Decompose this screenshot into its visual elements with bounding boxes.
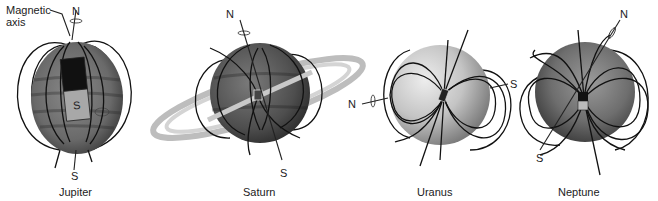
magnetic-axis-label-line2: axis [6, 16, 26, 28]
magnet-south-half [578, 101, 588, 110]
north-pole-label: N [620, 8, 628, 20]
bar-magnet [254, 90, 262, 100]
south-pole-label: S [280, 167, 287, 179]
planet-label-saturn: Saturn [243, 186, 275, 198]
rotation-arrow-icon [70, 19, 82, 23]
magnet-pole-label: S [72, 99, 81, 112]
north-pole-label: N [348, 98, 356, 110]
south-pole-label: S [71, 170, 78, 182]
north-pole-label: N [72, 5, 80, 17]
planet-saturn: N S Saturn [147, 8, 370, 198]
field-line [88, 150, 92, 162]
planet-neptune: N S Neptune [520, 8, 648, 198]
south-pole-label: S [510, 78, 517, 90]
planet-label-uranus: Uranus [417, 186, 453, 198]
planet-label-jupiter: Jupiter [59, 186, 92, 198]
planet-label-neptune: Neptune [558, 186, 600, 198]
magnet-north-half [578, 92, 588, 101]
planet-jupiter: Magnetic axis S [6, 4, 131, 198]
south-pole-label: S [536, 152, 543, 164]
magnetic-axis-pointer [50, 10, 70, 36]
field-line [55, 150, 60, 168]
rotation-axis-south [490, 84, 508, 88]
magnetic-axis-label-line1: Magnetic [6, 4, 51, 16]
bar-magnet [578, 92, 588, 110]
magnetic-fields-diagram: Magnetic axis S [0, 0, 658, 201]
north-pole-label: N [226, 8, 234, 20]
magnet-north-half [60, 57, 87, 91]
planet-uranus: N S Uranus [348, 30, 517, 198]
